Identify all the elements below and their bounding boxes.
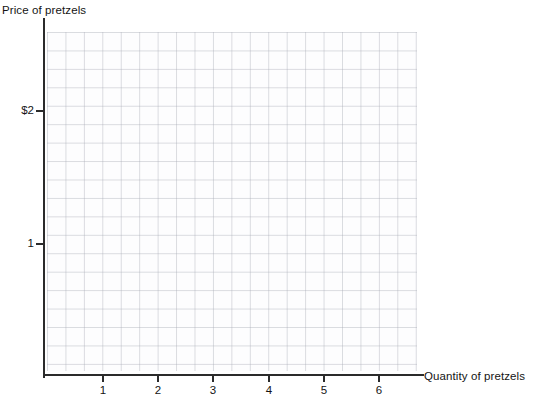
y-tick-mark (36, 243, 45, 245)
grid-area (47, 32, 417, 371)
x-tick-label: 3 (210, 384, 216, 397)
x-tick-label: 4 (266, 384, 272, 397)
x-tick-label: 5 (321, 384, 327, 397)
y-tick-label: $2 (21, 104, 34, 117)
y-tick-mark (36, 110, 45, 112)
x-tick-mark (157, 374, 159, 382)
x-axis-line (43, 374, 424, 376)
y-axis-line (43, 18, 45, 378)
x-tick-mark (212, 374, 214, 382)
x-tick-mark (268, 374, 270, 382)
graph-figure: Price of pretzels 123456 $21 Quantity of… (0, 0, 536, 411)
y-tick-label: 1 (28, 237, 34, 250)
x-tick-label: 6 (376, 384, 382, 397)
x-tick-mark (323, 374, 325, 382)
x-tick-mark (102, 374, 104, 382)
y-axis-ticks: $21 (0, 0, 34, 411)
x-tick-label: 2 (155, 384, 161, 397)
x-axis-title: Quantity of pretzels (424, 370, 525, 383)
x-tick-mark (378, 374, 380, 382)
x-tick-label: 1 (100, 384, 106, 397)
